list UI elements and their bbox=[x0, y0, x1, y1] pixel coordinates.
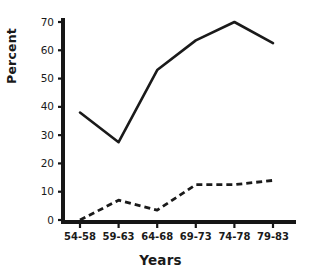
line-chart: 010203040506070 54-5859-6364-6869-7374-7… bbox=[0, 0, 321, 276]
x-axis-title: Years bbox=[0, 252, 321, 268]
y-tick-label: 60 bbox=[41, 44, 54, 56]
series-line-dashed bbox=[80, 180, 273, 220]
chart-plot-area: 010203040506070 54-5859-6364-6869-7374-7… bbox=[0, 0, 321, 276]
y-tick-label: 20 bbox=[41, 157, 54, 169]
x-tick-label: 69-73 bbox=[180, 231, 212, 242]
x-tick-label: 64-68 bbox=[141, 231, 173, 242]
y-tick-label: 0 bbox=[47, 214, 54, 226]
x-tick-label: 74-78 bbox=[218, 231, 250, 242]
y-tick-label: 10 bbox=[41, 185, 54, 197]
x-tick-label: 59-63 bbox=[103, 231, 135, 242]
y-tick-label: 30 bbox=[41, 129, 54, 141]
x-tick-label: 54-58 bbox=[64, 231, 96, 242]
series-line-solid bbox=[80, 22, 273, 142]
y-tick-label: 40 bbox=[41, 100, 54, 112]
y-tick-label: 50 bbox=[41, 72, 54, 84]
x-tick-label: 79-83 bbox=[257, 231, 289, 242]
y-tick-label: 70 bbox=[41, 16, 54, 28]
y-axis-title: Percent bbox=[4, 16, 19, 96]
